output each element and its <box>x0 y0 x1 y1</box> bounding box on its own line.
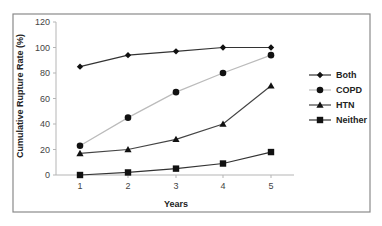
series-neither <box>77 149 274 178</box>
y-tick-label: 80 <box>40 68 50 78</box>
y-tick-label: 0 <box>45 170 50 180</box>
legend-label: Both <box>336 70 357 80</box>
y-axis-title: Cumulative Rupture Rate (%) <box>15 34 25 158</box>
diamond-marker-icon <box>220 44 226 50</box>
y-tick-label: 40 <box>40 119 50 129</box>
circle-marker-icon <box>77 142 84 149</box>
square-marker-icon <box>220 160 226 166</box>
x-axis: 12345 <box>56 175 294 191</box>
series-layer <box>76 44 274 178</box>
legend-item-htn: HTN <box>309 100 355 110</box>
series-copd <box>77 52 275 149</box>
square-marker-icon <box>317 117 323 123</box>
circle-marker-icon <box>309 87 331 94</box>
diamond-marker-icon <box>173 48 179 54</box>
series-line <box>80 55 271 146</box>
y-tick-label: 20 <box>40 145 50 155</box>
legend-label: Neither <box>336 115 368 125</box>
square-marker-icon <box>125 169 131 175</box>
legend-item-copd: COPD <box>309 85 363 95</box>
triangle-marker-icon <box>267 82 274 88</box>
line-chart: 020406080100120 12345 Cumulative Rupture… <box>0 0 382 226</box>
x-tick-label: 5 <box>268 181 273 191</box>
chart-frame <box>13 14 370 212</box>
x-axis-title: Years <box>164 199 188 209</box>
circle-marker-icon <box>220 70 227 77</box>
y-tick-label: 100 <box>35 43 50 53</box>
square-marker-icon <box>77 172 83 178</box>
square-marker-icon <box>173 165 179 171</box>
x-tick-label: 1 <box>77 181 82 191</box>
square-marker-icon <box>268 149 274 155</box>
diamond-marker-icon <box>77 63 83 69</box>
diamond-marker-icon <box>268 44 274 50</box>
circle-marker-icon <box>268 52 275 59</box>
series-both <box>77 44 274 70</box>
diamond-marker-icon <box>125 52 131 58</box>
diamond-marker-icon <box>309 72 331 78</box>
legend-label: COPD <box>336 85 363 95</box>
legend-item-neither: Neither <box>309 115 368 125</box>
circle-marker-icon <box>317 87 324 94</box>
series-line <box>80 86 271 154</box>
x-tick-label: 4 <box>220 181 225 191</box>
legend-label: HTN <box>336 100 355 110</box>
legend: Both COPD HTN Neither <box>309 70 368 125</box>
x-tick-label: 2 <box>125 181 130 191</box>
y-axis: 020406080100120 <box>35 17 56 180</box>
square-marker-icon <box>309 117 331 123</box>
triangle-marker-icon <box>309 101 331 107</box>
diamond-marker-icon <box>317 72 323 78</box>
y-tick-label: 120 <box>35 17 50 27</box>
circle-marker-icon <box>125 114 132 121</box>
y-tick-label: 60 <box>40 94 50 104</box>
circle-marker-icon <box>173 89 180 96</box>
x-tick-label: 3 <box>173 181 178 191</box>
legend-item-both: Both <box>309 70 357 80</box>
